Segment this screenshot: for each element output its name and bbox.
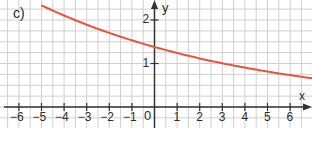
x-tick-label: −3 [78,110,92,124]
x-tick-label: 6 [287,110,294,124]
x-tick-label: 4 [241,110,248,124]
y-tick-label: 1 [143,56,150,70]
x-tick-label: −4 [55,110,69,124]
x-tick-label: −5 [33,110,47,124]
y-tick-label: 2 [143,12,150,26]
x-tick-label: 1 [174,110,181,124]
x-tick-label: 5 [264,110,271,124]
x-axis-label: x [299,89,305,103]
x-tick-label: −1 [123,110,137,124]
y-axis-label: y [162,0,169,15]
x-tick-label: 3 [219,110,226,124]
part-label: c) [13,5,25,21]
x-tick-label: 2 [196,110,203,124]
x-tick-label: −6 [10,110,24,124]
x-tick-label: −2 [100,110,114,124]
origin-label: 0 [144,108,151,123]
